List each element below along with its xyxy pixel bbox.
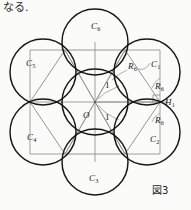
- circle-c1: [114, 39, 180, 105]
- figure-canvas: なる. C6 C5 C1 C4 C2 C3 H1 O R6 R6 R6 1 1 …: [0, 0, 191, 210]
- center-point-o: [94, 101, 96, 103]
- label-c4: C4: [27, 133, 36, 142]
- label-unit-top: 1: [105, 81, 110, 90]
- label-c6: C6: [91, 22, 100, 31]
- label-unit-bottom: 1: [105, 113, 110, 122]
- figure-caption: 図3: [152, 186, 168, 196]
- label-o: O: [83, 111, 90, 120]
- label-h1: H1: [165, 98, 175, 107]
- construction-lines: [30, 42, 168, 162]
- label-r6-lower: R6: [155, 116, 164, 125]
- label-r6-middle: R6: [155, 82, 164, 91]
- leader-r6-a: [138, 63, 150, 69]
- leader-one-top: [98, 89, 113, 99]
- circle-c4: [10, 99, 76, 165]
- label-c5: C5: [26, 59, 35, 68]
- body-text-note: なる.: [3, 2, 29, 13]
- label-r6-upper: R6: [128, 62, 137, 71]
- circle-c2: [114, 99, 180, 165]
- label-c2: C2: [150, 135, 159, 144]
- label-c1: C1: [151, 60, 160, 69]
- circle-c5: [10, 39, 76, 105]
- label-c3: C3: [89, 174, 98, 183]
